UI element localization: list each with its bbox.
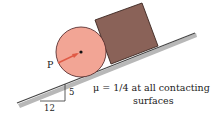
friction-note-line2: surfaces xyxy=(133,96,174,106)
cylinder-center-dot xyxy=(79,50,82,53)
friction-note-line1: μ = 1/4 at all contacting xyxy=(93,83,210,93)
force-label-p: P xyxy=(47,60,53,70)
rise-label: 5 xyxy=(69,88,74,97)
incline-diagram xyxy=(0,0,215,117)
run-label: 12 xyxy=(44,104,55,113)
